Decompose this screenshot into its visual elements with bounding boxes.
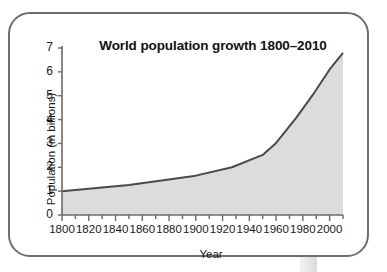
y-tick-label: 0 <box>39 207 53 221</box>
y-tick-label: 1 <box>39 183 53 197</box>
chart-card: World population growth 1800–2010 Popula… <box>8 12 369 257</box>
figure: World population growth 1800–2010 Popula… <box>0 0 387 272</box>
area-fill <box>62 53 343 215</box>
y-tick-label: 4 <box>39 112 53 126</box>
y-tick-label: 2 <box>39 159 53 173</box>
y-tick-label: 5 <box>39 88 53 102</box>
y-tick-label: 7 <box>39 40 53 54</box>
y-tick-label: 6 <box>39 64 53 78</box>
y-tick-label: 3 <box>39 135 53 149</box>
x-tick-label: 2000 <box>313 223 347 235</box>
